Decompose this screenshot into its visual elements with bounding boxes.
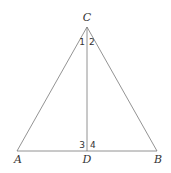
vertex-label-c: C xyxy=(83,11,92,24)
angle-label-2: 2 xyxy=(89,37,95,47)
triangle-diagram: C A D B 1 2 3 4 xyxy=(0,0,171,173)
angle-label-1: 1 xyxy=(79,37,85,47)
angle-label-4: 4 xyxy=(90,140,96,150)
vertex-label-b: B xyxy=(153,153,162,166)
angle-label-3: 3 xyxy=(79,140,85,150)
segment-bc xyxy=(87,27,157,151)
vertex-label-a: A xyxy=(13,153,22,166)
segment-ac xyxy=(17,27,87,151)
vertex-label-d: D xyxy=(82,153,92,166)
